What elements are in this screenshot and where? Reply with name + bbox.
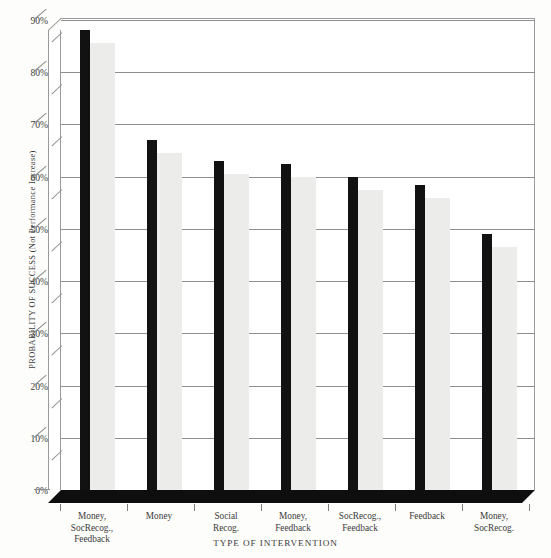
bar-top-cap-7: [482, 234, 517, 247]
bar-side-face-5: [358, 190, 383, 490]
x-tick-end: [529, 504, 530, 511]
bar-cap-wedge-7: [482, 234, 492, 247]
x-tick-4: [261, 504, 262, 511]
bar-top-cap-3: [214, 161, 249, 174]
bar-front-face-5: [348, 177, 358, 490]
x-category-label-line: SocRecog.: [451, 523, 537, 535]
bar-top-cap-4: [281, 164, 316, 177]
x-tick-1: [60, 504, 61, 511]
bar-cap-wedge-3: [214, 161, 224, 174]
bar-4: [281, 164, 316, 490]
bar-1: [80, 30, 115, 490]
bar-series: [0, 0, 551, 558]
bar-front-face-7: [482, 234, 492, 490]
x-tick-2: [127, 504, 128, 511]
bar-top-cap-2: [147, 140, 182, 153]
chart-base-slab: [48, 490, 535, 504]
bar-side-face-1: [90, 43, 115, 490]
x-tick-3: [194, 504, 195, 511]
bar-side-face-3: [224, 174, 249, 490]
bar-cap-wedge-1: [80, 30, 90, 43]
bar-side-face-4: [291, 177, 316, 490]
bar-front-face-4: [281, 164, 291, 490]
x-category-label-line: SocRecog.,: [49, 523, 135, 535]
bar-3: [214, 161, 249, 490]
bar-6: [415, 185, 450, 491]
bar-top-cap-6: [415, 185, 450, 198]
bar-front-face-2: [147, 140, 157, 490]
x-axis-title: TYPE OF INTERVENTION: [0, 538, 551, 548]
bar-7: [482, 234, 517, 490]
bar-side-face-7: [492, 247, 517, 490]
bar-front-face-6: [415, 185, 425, 491]
x-category-label-7: Money,SocRecog.: [451, 511, 537, 534]
bar-side-face-2: [157, 153, 182, 490]
bar-cap-wedge-2: [147, 140, 157, 153]
chart-root: PROBABILITY OF SUCCESS (Not Performance …: [0, 0, 551, 558]
x-tick-7: [462, 504, 463, 511]
x-tick-6: [395, 504, 396, 511]
x-category-label-line: Feedback: [317, 523, 403, 535]
bar-2: [147, 140, 182, 490]
bar-front-face-3: [214, 161, 224, 490]
x-category-label-line: Money,: [451, 511, 537, 523]
bar-top-cap-1: [80, 30, 115, 43]
bar-side-face-6: [425, 198, 450, 491]
bar-cap-wedge-4: [281, 164, 291, 177]
bar-front-face-1: [80, 30, 90, 490]
bar-cap-wedge-6: [415, 185, 425, 198]
bar-cap-wedge-5: [348, 177, 358, 190]
x-tick-5: [328, 504, 329, 511]
bar-top-cap-5: [348, 177, 383, 190]
bar-5: [348, 177, 383, 490]
